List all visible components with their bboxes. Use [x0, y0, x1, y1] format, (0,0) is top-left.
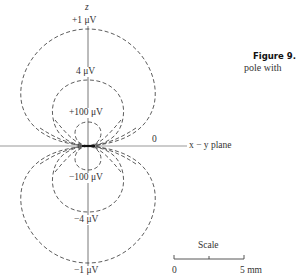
- contour-label-minus-100uV: −100 μV: [69, 173, 103, 183]
- scale-title: Scale: [198, 241, 219, 251]
- z-axis-label: z: [85, 3, 89, 13]
- figure-caption-title: Figure 9.: [253, 52, 296, 61]
- x-y-plane-label: x − y plane: [189, 141, 232, 151]
- dipole-field-diagram: [0, 0, 296, 278]
- scale-end-label: 5 mm: [240, 266, 262, 276]
- scale-bar: [174, 255, 244, 259]
- contour-label-plus-4uV: 4 μV: [76, 67, 95, 77]
- contour-label-plus-100uV: +100 μV: [69, 108, 103, 118]
- contour-label-minus-4uV: −4 μV: [74, 215, 98, 225]
- zero-label: 0: [152, 135, 157, 145]
- scale-start-label: 0: [172, 266, 177, 276]
- contour-label-plus-1uV: +1 μV: [72, 16, 96, 26]
- figure-caption-text: pole with: [244, 63, 282, 73]
- contour-label-minus-1uV: −1 μV: [74, 266, 98, 276]
